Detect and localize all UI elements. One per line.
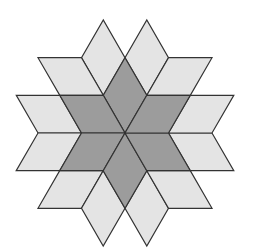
star-diagram [0,0,255,252]
rhombus-star-figure [0,0,255,252]
